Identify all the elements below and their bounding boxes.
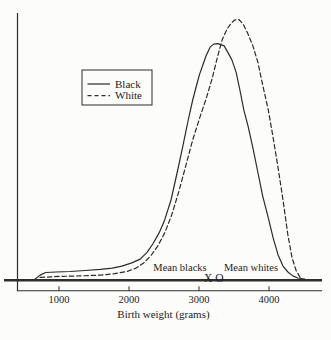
axes xyxy=(4,13,322,291)
distribution-curves xyxy=(35,20,305,280)
legend: BlackWhite xyxy=(82,70,152,105)
x-axis-title: Birth weight (grams) xyxy=(117,308,210,321)
x-tick-label: 4000 xyxy=(259,294,280,305)
legend-rows: BlackWhite xyxy=(88,78,142,102)
mean-marker-o: O xyxy=(215,272,223,284)
black-curve xyxy=(35,44,305,279)
x-tick-label: 1000 xyxy=(49,294,70,305)
white-curve xyxy=(40,20,302,279)
annotation-label: Mean whites xyxy=(224,262,278,273)
figure-page: 1000200030004000 BlackWhite Mean blacksX… xyxy=(0,0,331,340)
x-tick-label: 2000 xyxy=(119,294,140,305)
x-tick-label: 3000 xyxy=(189,294,210,305)
annotation-label: Mean blacks xyxy=(153,262,206,273)
x-axis-ticks: 1000200030004000 xyxy=(49,286,280,304)
birth-weight-distribution-chart: 1000200030004000 BlackWhite Mean blacksX… xyxy=(0,0,331,340)
legend-label-white: White xyxy=(115,89,142,101)
legend-label-black: Black xyxy=(115,78,141,90)
mean-marker-x: X xyxy=(204,272,213,284)
